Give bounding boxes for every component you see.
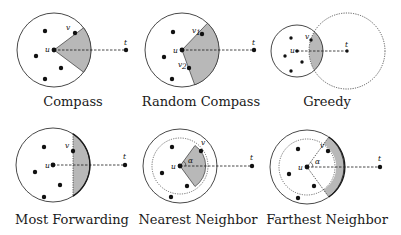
node-t [345,49,348,52]
caption-most-forwarding: Most Forwarding [15,212,129,227]
node [43,29,47,33]
node [171,30,175,34]
node-v [326,149,330,153]
node [169,195,173,199]
node [185,184,189,188]
label-alpha: α [188,156,193,165]
node-t [378,165,382,169]
label-t: t [123,152,127,161]
node [162,55,166,59]
node [300,60,303,63]
caption-farthest-neighbor: Farthest Neighbor [266,212,388,227]
panel-random-compass: u v 1 v 2 t Random Compass [142,13,260,109]
node [42,145,46,149]
node-u [295,49,299,53]
node [289,69,292,72]
node-t [252,48,256,52]
node [42,195,46,199]
label-v: v [320,141,325,150]
label-t: t [378,154,382,163]
node-t [250,164,254,168]
label-t: t [345,40,349,49]
label-v2: v 2 [178,60,187,71]
label-v: v [65,141,70,150]
node-u [305,165,310,170]
svg-text:1: 1 [196,28,201,37]
panel-greedy: u v t Greedy [271,13,385,109]
node-t [124,48,128,52]
label-u: u [45,45,50,54]
node [170,77,174,81]
label-t: t [124,38,128,47]
node-v [71,149,75,153]
node-u [178,164,183,169]
label-alpha: α [315,157,320,166]
node [43,77,47,81]
node-v [73,31,77,35]
label-t: t [252,38,256,47]
caption-random-compass: Random Compass [142,94,260,109]
node-t [123,163,127,167]
panel-most-forwarding: u v t Most Forwarding [15,125,129,227]
caption-compass: Compass [43,94,103,109]
node [287,172,291,176]
node [289,36,292,39]
node [170,145,174,149]
node-u [51,163,56,168]
node [296,196,300,200]
caption-nearest-neighbor: Nearest Neighbor [138,212,258,227]
panel-nearest-neighbor: u v α t Nearest Neighbor [138,129,258,227]
node [58,183,62,187]
node [160,171,164,175]
angle-arc [311,162,313,167]
label-t: t [250,153,254,162]
label-u: u [290,46,295,55]
node-u [180,48,185,53]
node-u [52,48,57,53]
caption-greedy: Greedy [303,94,351,109]
node-v [199,149,203,153]
panel-compass: u v t Compass [17,13,128,109]
label-v1: v 1 [192,26,201,37]
node [312,184,316,188]
panel-farthest-neighbor: u v α t Farthest Neighbor [266,130,388,227]
routing-strategies-figure: u v t Compass u v 1 v 2 t Random Compass [0,0,401,235]
svg-text:2: 2 [181,62,187,71]
node [34,54,38,58]
node [283,54,286,57]
farthest-annulus-sector [324,137,345,197]
node [296,147,300,151]
node [59,66,63,70]
label-v: v [305,32,310,41]
node-v [309,38,312,41]
label-u: u [298,163,303,172]
label-u: u [171,162,176,171]
node-v2 [187,66,191,70]
label-v: v [66,23,71,32]
node [33,170,37,174]
label-u: u [173,46,178,55]
label-u: u [45,161,50,170]
